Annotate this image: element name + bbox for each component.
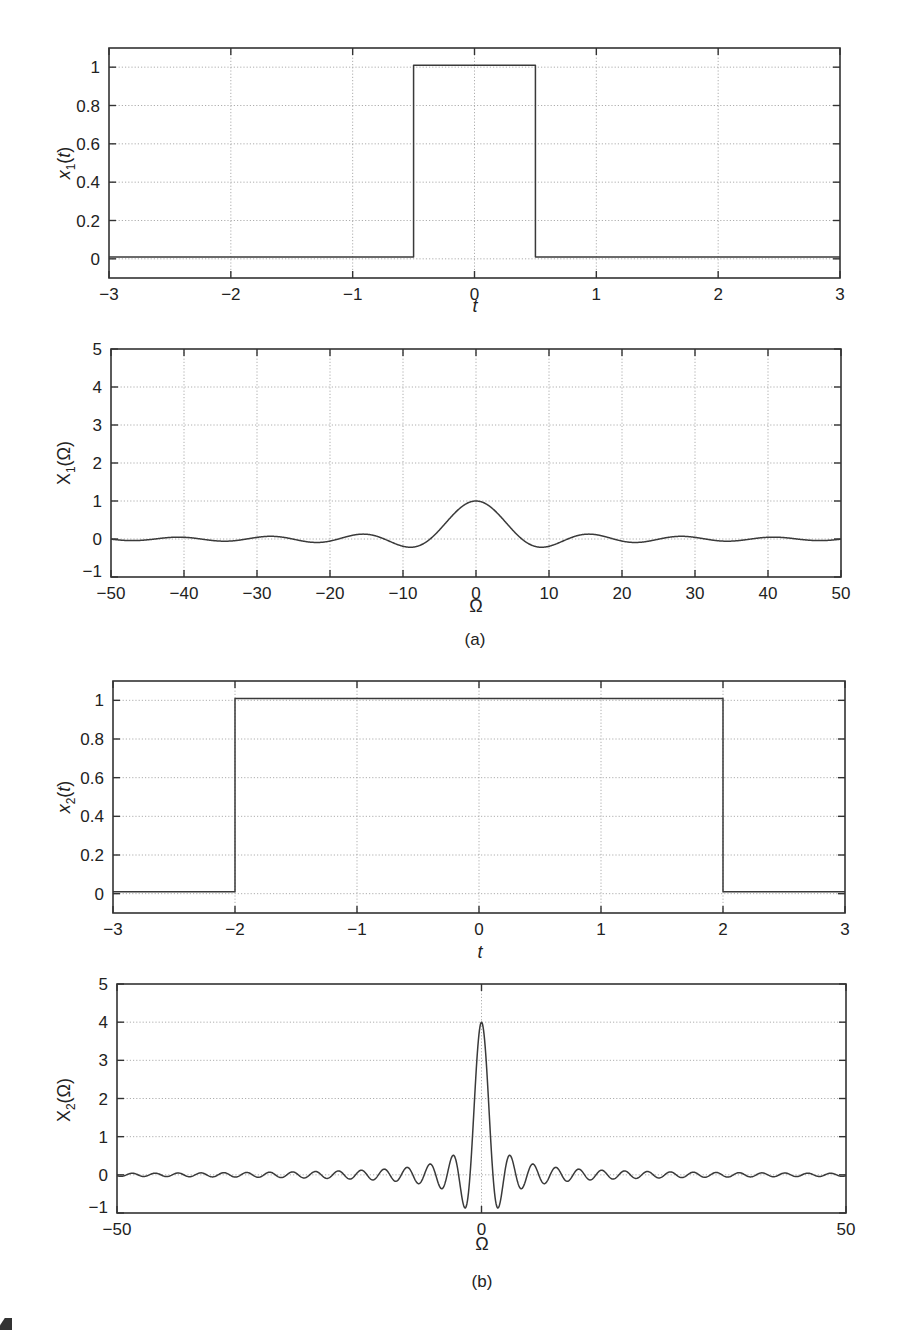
y-tick-label: 0 bbox=[93, 530, 102, 549]
x-tick-label: 3 bbox=[840, 920, 849, 939]
y-tick-label: 2 bbox=[93, 454, 102, 473]
x-tick-label: 50 bbox=[832, 584, 851, 603]
x-tick-label: −3 bbox=[103, 920, 122, 939]
x-tick-label: −30 bbox=[243, 584, 272, 603]
tick-labels: −3−2−1012300.20.40.60.81 bbox=[76, 58, 844, 304]
plot-x1_time: −3−2−1012300.20.40.60.81tx1(t) bbox=[54, 48, 845, 316]
y-tick-label: 0.4 bbox=[76, 173, 100, 192]
y-tick-label: 0 bbox=[95, 885, 104, 904]
x-tick-label: 0 bbox=[474, 920, 483, 939]
grid-lines bbox=[109, 48, 840, 278]
x-tick-label: −2 bbox=[225, 920, 244, 939]
x-tick-label: −10 bbox=[389, 584, 418, 603]
x-tick-label: −3 bbox=[99, 285, 118, 304]
y-axis-label: X1(Ω) bbox=[54, 441, 78, 485]
x-tick-label: 20 bbox=[613, 584, 632, 603]
x-tick-label: 2 bbox=[713, 285, 722, 304]
caption-a: (a) bbox=[465, 630, 486, 649]
x-tick-label: 1 bbox=[592, 285, 601, 304]
y-tick-label: 0.4 bbox=[80, 807, 104, 826]
y-tick-label: 0 bbox=[99, 1166, 108, 1185]
x-tick-label: 50 bbox=[837, 1220, 856, 1239]
y-tick-label: 5 bbox=[93, 340, 102, 359]
y-tick-label: −1 bbox=[89, 1198, 108, 1217]
plot-X2_freq: −50050−1012345ΩX2(Ω) bbox=[54, 975, 855, 1254]
x-tick-label: −1 bbox=[343, 285, 362, 304]
caption-b: (b) bbox=[472, 1272, 493, 1291]
grid-lines bbox=[117, 984, 846, 1213]
figure: −3−2−1012300.20.40.60.81tx1(t)−50−40−30−… bbox=[0, 0, 900, 1330]
x-tick-label: 30 bbox=[686, 584, 705, 603]
y-tick-label: 3 bbox=[93, 416, 102, 435]
y-tick-label: 1 bbox=[95, 691, 104, 710]
plot-x2_time: −3−2−1012300.20.40.60.81tx2(t) bbox=[54, 681, 850, 962]
y-tick-label: 1 bbox=[91, 58, 100, 77]
x-tick-label: −40 bbox=[170, 584, 199, 603]
y-tick-label: 1 bbox=[99, 1128, 108, 1147]
y-tick-label: 0.6 bbox=[76, 135, 100, 154]
tick-labels: −3−2−1012300.20.40.60.81 bbox=[80, 691, 849, 939]
x-tick-label: 10 bbox=[540, 584, 559, 603]
x-tick-label: −1 bbox=[347, 920, 366, 939]
y-tick-label: 4 bbox=[99, 1013, 108, 1032]
tick-labels: −50050−1012345 bbox=[89, 975, 856, 1239]
x-tick-label: 1 bbox=[596, 920, 605, 939]
x-axis-label: Ω bbox=[469, 596, 482, 616]
x-tick-label: −20 bbox=[316, 584, 345, 603]
y-tick-label: −1 bbox=[83, 562, 102, 581]
figure-canvas: −3−2−1012300.20.40.60.81tx1(t)−50−40−30−… bbox=[0, 0, 900, 1330]
grid-lines bbox=[113, 681, 845, 913]
y-tick-label: 5 bbox=[99, 975, 108, 994]
grid-lines bbox=[111, 349, 841, 577]
y-tick-label: 0.2 bbox=[80, 846, 104, 865]
y-axis-label: X2(Ω) bbox=[54, 1078, 78, 1122]
y-tick-label: 4 bbox=[93, 378, 102, 397]
data-curve bbox=[111, 501, 841, 547]
y-tick-label: 0.6 bbox=[80, 769, 104, 788]
y-tick-label: 0.2 bbox=[76, 212, 100, 231]
y-tick-label: 1 bbox=[93, 492, 102, 511]
data-curve bbox=[113, 698, 845, 891]
y-axis-label: x1(t) bbox=[54, 147, 78, 181]
plot-X1_freq: −50−40−30−20−1001020304050−1012345ΩX1(Ω) bbox=[54, 340, 850, 616]
x-tick-label: −50 bbox=[97, 584, 126, 603]
y-tick-label: 3 bbox=[99, 1051, 108, 1070]
x-axis-label: Ω bbox=[475, 1234, 488, 1254]
y-axis-label: x2(t) bbox=[54, 781, 78, 815]
x-tick-label: −50 bbox=[103, 1220, 132, 1239]
y-tick-label: 2 bbox=[99, 1090, 108, 1109]
x-tick-label: −2 bbox=[221, 285, 240, 304]
y-tick-label: 0 bbox=[91, 250, 100, 269]
x-tick-label: 3 bbox=[835, 285, 844, 304]
tick-labels: −50−40−30−20−1001020304050−1012345 bbox=[83, 340, 851, 603]
x-axis-label: t bbox=[477, 942, 483, 962]
x-tick-label: 2 bbox=[718, 920, 727, 939]
y-tick-label: 0.8 bbox=[80, 730, 104, 749]
y-tick-label: 0.8 bbox=[76, 97, 100, 116]
x-tick-label: 40 bbox=[759, 584, 778, 603]
